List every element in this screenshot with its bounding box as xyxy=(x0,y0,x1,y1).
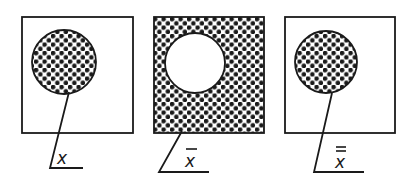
label-x-double-bar: x xyxy=(334,152,346,172)
leader-line xyxy=(159,131,209,172)
panel-double-complement: x xyxy=(285,17,395,172)
label-x: x xyxy=(56,148,68,168)
panel-set-x: x xyxy=(22,17,133,168)
set-circle-shaded xyxy=(295,31,357,93)
label-x-bar: x xyxy=(184,151,196,171)
set-complement-diagram: x x x xyxy=(0,0,415,181)
set-circle-shaded xyxy=(32,30,96,94)
set-circle-empty xyxy=(165,33,225,93)
panel-complement: x xyxy=(154,17,264,172)
